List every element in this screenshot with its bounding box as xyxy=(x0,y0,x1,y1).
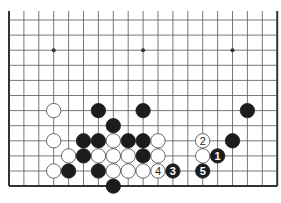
black-stone xyxy=(136,149,150,163)
black-stone-icon xyxy=(121,134,135,148)
white-stone-icon xyxy=(151,134,165,148)
white-stone-icon xyxy=(61,149,75,163)
black-stone xyxy=(136,134,150,148)
move-number-label: 2 xyxy=(200,135,206,147)
go-board: 21435 xyxy=(0,0,281,203)
black-stone xyxy=(106,119,120,133)
black-stone-icon xyxy=(91,103,105,117)
white-stone xyxy=(151,134,165,148)
black-stone-icon xyxy=(76,149,90,163)
white-stone xyxy=(61,149,75,163)
black-stone xyxy=(91,164,105,178)
white-stone-move-4: 4 xyxy=(151,164,165,178)
move-number-label: 5 xyxy=(200,165,206,177)
black-stone-icon xyxy=(91,134,105,148)
white-stone-move-2: 2 xyxy=(196,134,210,148)
stones-layer: 21435 xyxy=(47,103,255,193)
black-stone xyxy=(136,103,150,117)
white-stone xyxy=(106,164,120,178)
white-stone xyxy=(121,164,135,178)
black-stone-icon xyxy=(225,134,239,148)
white-stone xyxy=(196,149,210,163)
white-stone xyxy=(106,134,120,148)
white-stone xyxy=(136,164,150,178)
black-stone-icon xyxy=(91,164,105,178)
black-stone xyxy=(106,179,120,193)
black-stone xyxy=(76,134,90,148)
black-stone xyxy=(240,103,254,117)
star-point-icon xyxy=(231,48,235,52)
white-stone-icon xyxy=(47,134,61,148)
black-stone xyxy=(225,134,239,148)
black-stone-icon xyxy=(61,164,75,178)
move-number-label: 4 xyxy=(155,165,161,177)
white-stone-icon xyxy=(106,149,120,163)
move-number-label: 3 xyxy=(170,165,176,177)
black-stone-move-1: 1 xyxy=(210,149,224,163)
white-stone-icon xyxy=(106,164,120,178)
black-stone-icon xyxy=(136,149,150,163)
white-stone-icon xyxy=(121,149,135,163)
black-stone-icon xyxy=(240,103,254,117)
white-stone xyxy=(47,164,61,178)
white-stone xyxy=(106,149,120,163)
white-stone-icon xyxy=(136,164,150,178)
black-stone xyxy=(121,134,135,148)
white-stone-icon xyxy=(106,134,120,148)
star-point-icon xyxy=(52,48,56,52)
diagram-caption-faint xyxy=(10,192,40,200)
white-stone-icon xyxy=(47,164,61,178)
white-stone-icon xyxy=(91,149,105,163)
white-stone-icon xyxy=(151,149,165,163)
white-stone xyxy=(47,134,61,148)
black-stone-icon xyxy=(106,179,120,193)
white-stone-icon xyxy=(47,103,61,117)
black-stone-icon xyxy=(136,134,150,148)
white-stone xyxy=(121,149,135,163)
black-stone xyxy=(76,149,90,163)
move-number-label: 1 xyxy=(215,150,221,162)
black-stone-icon xyxy=(136,103,150,117)
black-stone-icon xyxy=(106,119,120,133)
white-stone-icon xyxy=(196,149,210,163)
black-stone-move-3: 3 xyxy=(166,164,180,178)
white-stone xyxy=(91,149,105,163)
black-stone xyxy=(91,103,105,117)
black-stone-icon xyxy=(76,134,90,148)
white-stone-icon xyxy=(121,164,135,178)
white-stone xyxy=(47,103,61,117)
black-stone-move-5: 5 xyxy=(196,164,210,178)
black-stone xyxy=(61,164,75,178)
white-stone xyxy=(151,149,165,163)
star-point-icon xyxy=(141,48,145,52)
black-stone xyxy=(91,134,105,148)
